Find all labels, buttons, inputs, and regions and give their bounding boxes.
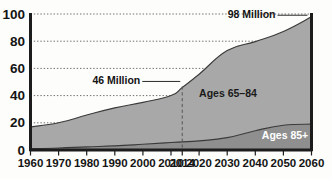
x-tick-label-2030: 2030 — [214, 157, 240, 169]
annotation-46-million: 46 Million — [92, 74, 140, 86]
x-tick-label-1960: 1960 — [18, 157, 44, 169]
y-tick-label-80: 80 — [10, 34, 25, 49]
series-label-ages-85-plus: Ages 85+ — [262, 129, 308, 141]
x-tick-label-2050: 2050 — [271, 157, 297, 169]
x-tick-label-2000: 2000 — [130, 157, 156, 169]
x-tick-label-1970: 1970 — [46, 157, 72, 169]
y-tick-label-60: 60 — [10, 61, 25, 76]
series-label-ages-65-84: Ages 65–84 — [199, 87, 257, 99]
x-axis-tick-labels: 1960197019801990200020102014202020302040… — [18, 157, 325, 169]
y-tick-label-100: 100 — [2, 7, 25, 22]
x-tick-label-1990: 1990 — [102, 157, 128, 169]
y-tick-label-40: 40 — [10, 88, 25, 103]
x-tick-label-2040: 2040 — [243, 157, 269, 169]
x-tick-label-2060: 2060 — [299, 157, 325, 169]
chart-canvas: 020406080100 196019701980199020002010201… — [0, 0, 332, 179]
y-tick-label-0: 0 — [17, 143, 25, 158]
annotation-98-million: 98 Million — [228, 8, 276, 20]
stacked-area-chart: 020406080100 196019701980199020002010201… — [0, 0, 332, 179]
x-tick-label-2020: 2020 — [186, 157, 212, 169]
y-tick-label-20: 20 — [10, 115, 25, 130]
x-tick-label-1980: 1980 — [74, 157, 100, 169]
